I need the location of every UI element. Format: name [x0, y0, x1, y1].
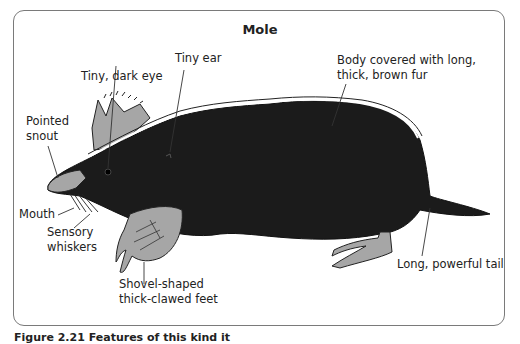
label-pointed-snout-2: snout [26, 129, 58, 144]
label-sensory-whiskers-1: Sensory [47, 225, 93, 240]
label-pointed-snout-1: Pointed [26, 114, 69, 129]
label-body-fur-1: Body covered with long, [337, 53, 476, 68]
label-tiny-dark-eye: Tiny, dark eye [81, 69, 163, 84]
eye-icon [105, 169, 111, 175]
label-tail: Long, powerful tail [397, 257, 504, 272]
label-tiny-ear: Tiny ear [175, 51, 221, 66]
label-shovel-feet-1: Shovel-shaped [119, 277, 204, 292]
label-mouth: Mouth [19, 207, 55, 222]
label-body-fur-2: thick, brown fur [337, 68, 428, 83]
figure-caption: Figure 2.21 Features of this kind it [14, 331, 230, 344]
label-sensory-whiskers-2: whiskers [47, 240, 97, 255]
label-shovel-feet-2: thick-clawed feet [119, 292, 218, 307]
